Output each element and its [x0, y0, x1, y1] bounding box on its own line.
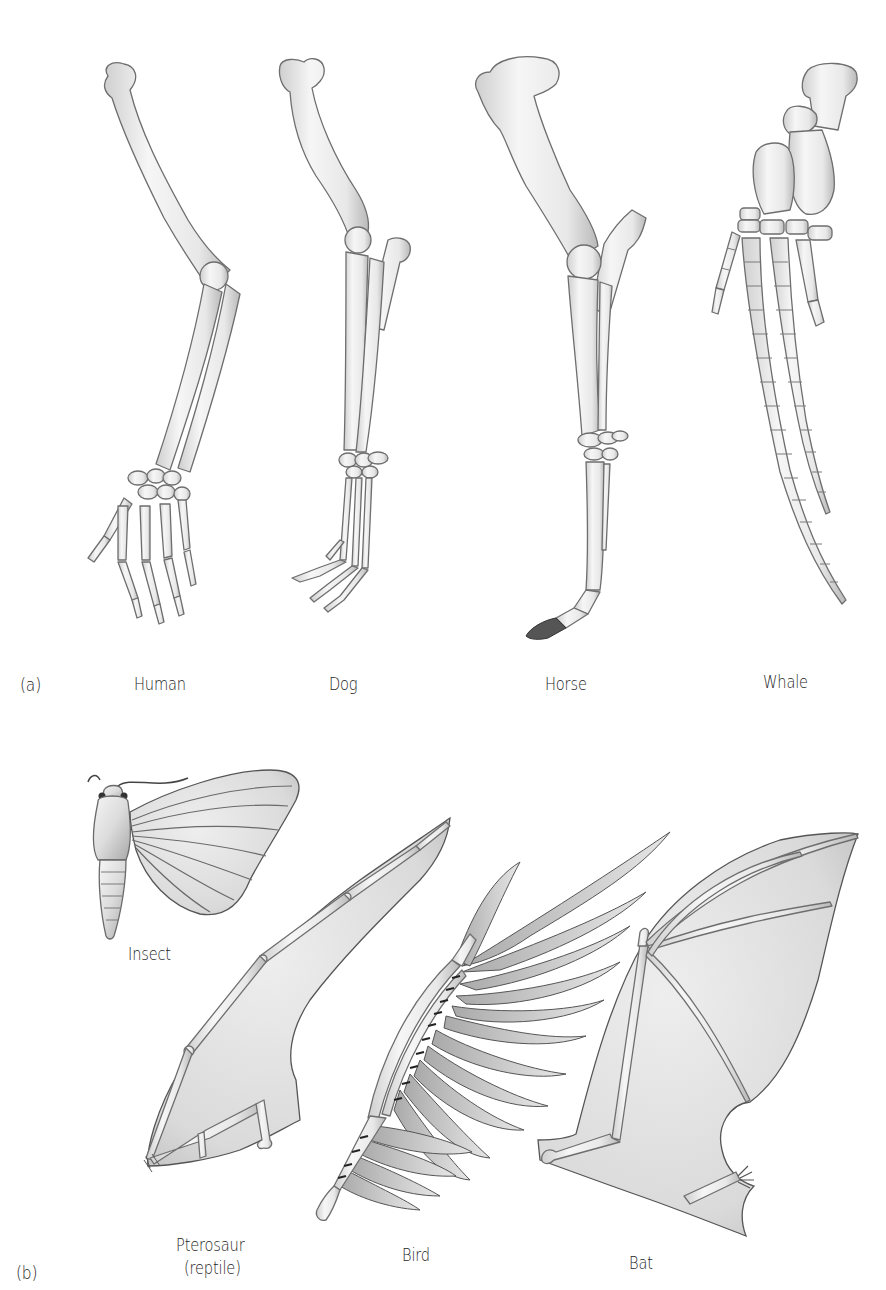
horse-forelimb-illustration [476, 57, 646, 640]
human-forelimb-illustration [88, 63, 240, 624]
dog-forelimb-illustration [279, 59, 410, 612]
illustration-canvas [0, 0, 886, 1290]
whale-flipper-illustration [712, 63, 857, 604]
horse-label: Horse [545, 674, 587, 694]
bird-label: Bird [402, 1245, 430, 1265]
panel-b-label: (b) [16, 1262, 37, 1283]
whale-label: Whale [763, 672, 808, 692]
pterosaur-label: Pterosaur [176, 1235, 244, 1255]
insect-label: Insect [128, 944, 171, 964]
pterosaur-sublabel: (reptile) [184, 1258, 241, 1278]
bat-label: Bat [629, 1253, 653, 1273]
panel-a-label: (a) [20, 674, 41, 695]
dog-label: Dog [329, 674, 357, 694]
human-label: Human [134, 674, 186, 694]
insect-wing-illustration [88, 770, 299, 939]
